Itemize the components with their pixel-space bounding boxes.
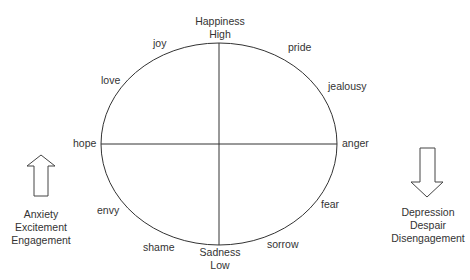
emotion-hope: hope — [73, 137, 96, 150]
down-arrow-icon — [411, 148, 443, 197]
axis-top-line1: Happiness — [195, 15, 245, 28]
emotion-sorrow: sorrow — [267, 238, 299, 251]
left-label-engagement: Engagement — [11, 234, 71, 247]
emotion-jealousy: jealousy — [328, 80, 367, 93]
right-arrow-labels: Depression Despair Disengagement — [391, 206, 465, 245]
axis-label-top: Happiness High — [195, 15, 245, 41]
left-arrow-labels: Anxiety Excitement Engagement — [11, 208, 71, 247]
emotion-love: love — [101, 74, 120, 87]
emotion-shame: shame — [143, 241, 175, 254]
axis-top-line2: High — [195, 28, 245, 41]
right-label-despair: Despair — [391, 219, 465, 232]
axis-bottom-line1: Sadness — [200, 246, 241, 259]
right-label-disengagement: Disengagement — [391, 232, 465, 245]
up-arrow-icon — [27, 155, 55, 196]
left-label-excitement: Excitement — [11, 221, 71, 234]
emotion-joy: joy — [153, 37, 166, 50]
axis-label-bottom: Sadness Low — [200, 246, 241, 272]
emotion-envy: envy — [97, 204, 119, 217]
emotion-anger: anger — [342, 137, 369, 150]
emotion-fear: fear — [321, 198, 339, 211]
axis-bottom-line2: Low — [200, 259, 241, 272]
right-label-depression: Depression — [391, 206, 465, 219]
emotion-pride: pride — [288, 41, 311, 54]
left-label-anxiety: Anxiety — [11, 208, 71, 221]
